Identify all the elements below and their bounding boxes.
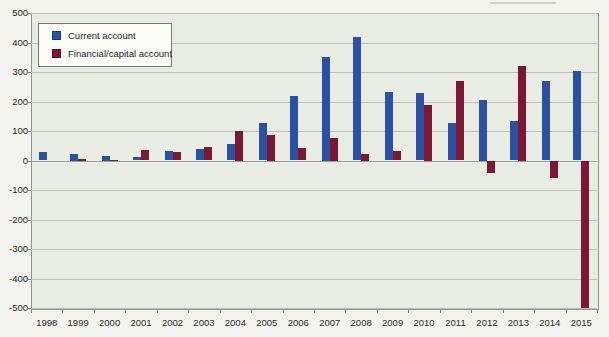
x-axis-label-1998: 1998 bbox=[31, 317, 63, 328]
y-axis-tick--200 bbox=[27, 220, 31, 221]
x-axis-label-2015: 2015 bbox=[565, 317, 597, 328]
x-axis-label-2009: 2009 bbox=[377, 317, 409, 328]
x-axis-label-2006: 2006 bbox=[282, 317, 314, 328]
bar-financial-capital-account-2007 bbox=[330, 138, 338, 161]
x-axis-label-2000: 2000 bbox=[94, 317, 126, 328]
x-axis-tick-18 bbox=[597, 310, 598, 313]
x-axis-tick-13 bbox=[440, 310, 441, 313]
y-axis-tick--500 bbox=[27, 308, 31, 309]
x-axis-label-1999: 1999 bbox=[62, 317, 94, 328]
x-axis-label-2003: 2003 bbox=[188, 317, 220, 328]
x-axis-tick-0 bbox=[31, 310, 32, 313]
bar-current-account-2009 bbox=[385, 92, 393, 161]
legend-item-financial-capital-account: Financial/capital account bbox=[52, 47, 171, 60]
legend-label-current-account: Current account bbox=[68, 30, 136, 41]
bar-current-account-2014 bbox=[542, 81, 550, 161]
y-axis-tick-0 bbox=[27, 161, 31, 162]
x-axis-label-2002: 2002 bbox=[157, 317, 189, 328]
y-axis-label--200: -200 bbox=[0, 215, 28, 225]
y-axis-label-300: 300 bbox=[0, 67, 28, 77]
legend-label-financial-capital-account: Financial/capital account bbox=[68, 48, 172, 59]
y-axis-tick--300 bbox=[27, 249, 31, 250]
bar-financial-capital-account-2004 bbox=[235, 131, 243, 161]
y-axis-label-0: 0 bbox=[0, 156, 28, 166]
y-axis-label--400: -400 bbox=[0, 274, 28, 284]
x-axis-tick-10 bbox=[345, 310, 346, 313]
bar-financial-capital-account-2009 bbox=[393, 151, 401, 160]
y-axis-label--100: -100 bbox=[0, 185, 28, 195]
x-axis-tick-3 bbox=[125, 310, 126, 313]
bar-current-account-2012 bbox=[479, 100, 487, 161]
x-axis-label-2012: 2012 bbox=[471, 317, 503, 328]
bar-current-account-1999 bbox=[70, 154, 78, 161]
bar-financial-capital-account-2006 bbox=[298, 148, 306, 160]
bar-financial-capital-account-2005 bbox=[267, 135, 275, 161]
x-axis-tick-4 bbox=[157, 310, 158, 313]
current-account-swatch-icon bbox=[52, 31, 61, 40]
x-axis-label-2010: 2010 bbox=[408, 317, 440, 328]
y-axis-label--300: -300 bbox=[0, 244, 28, 254]
figure: 5004003002001000-100-200-300-400-500 199… bbox=[0, 0, 609, 337]
x-axis-label-2005: 2005 bbox=[251, 317, 283, 328]
bar-current-account-2015 bbox=[573, 71, 581, 160]
gridline--100 bbox=[31, 190, 597, 191]
bar-financial-capital-account-2008 bbox=[361, 154, 369, 161]
bar-current-account-2013 bbox=[510, 121, 518, 160]
bar-financial-capital-account-2001 bbox=[141, 150, 149, 160]
y-axis-tick--100 bbox=[27, 190, 31, 191]
gridline--400 bbox=[31, 279, 597, 280]
x-axis-label-2001: 2001 bbox=[125, 317, 157, 328]
y-axis-tick-200 bbox=[27, 102, 31, 103]
y-axis-label-500: 500 bbox=[0, 8, 28, 18]
y-axis-label-100: 100 bbox=[0, 126, 28, 136]
bar-current-account-1998 bbox=[39, 152, 47, 161]
bar-current-account-2004 bbox=[227, 144, 235, 160]
bar-financial-capital-account-1999 bbox=[78, 159, 86, 161]
gridline-200 bbox=[31, 102, 597, 103]
x-axis-tick-17 bbox=[566, 310, 567, 313]
gridline--300 bbox=[31, 249, 597, 250]
x-axis-label-2014: 2014 bbox=[534, 317, 566, 328]
x-axis-label-2004: 2004 bbox=[219, 317, 251, 328]
x-axis-label-2013: 2013 bbox=[502, 317, 534, 328]
x-axis-tick-8 bbox=[283, 310, 284, 313]
bar-financial-capital-account-2002 bbox=[173, 152, 181, 161]
bar-financial-capital-account-2013 bbox=[518, 66, 526, 161]
y-axis-label--500: -500 bbox=[0, 303, 28, 313]
x-axis-label-2008: 2008 bbox=[345, 317, 377, 328]
bar-current-account-2005 bbox=[259, 123, 267, 160]
gridline--200 bbox=[31, 220, 597, 221]
x-axis-tick-7 bbox=[251, 310, 252, 313]
x-axis-label-2007: 2007 bbox=[314, 317, 346, 328]
bar-current-account-2003 bbox=[196, 149, 204, 161]
bar-financial-capital-account-2003 bbox=[204, 147, 212, 160]
legend-item-current-account: Current account bbox=[52, 29, 171, 42]
bar-current-account-2001 bbox=[133, 157, 141, 161]
bar-financial-capital-account-2014 bbox=[550, 161, 558, 178]
y-axis-label-400: 400 bbox=[0, 38, 28, 48]
x-axis-tick-15 bbox=[503, 310, 504, 313]
y-axis-tick--400 bbox=[27, 279, 31, 280]
x-axis-tick-14 bbox=[471, 310, 472, 313]
gridline-500 bbox=[31, 13, 597, 14]
y-axis-tick-500 bbox=[27, 13, 31, 14]
x-axis-tick-2 bbox=[94, 310, 95, 313]
bar-current-account-2011 bbox=[448, 123, 456, 161]
bar-financial-capital-account-2012 bbox=[487, 161, 495, 173]
bar-financial-capital-account-2010 bbox=[424, 105, 432, 161]
bar-current-account-2010 bbox=[416, 93, 424, 160]
y-axis-tick-100 bbox=[27, 131, 31, 132]
gridline--500 bbox=[31, 308, 597, 309]
y-axis-tick-300 bbox=[27, 72, 31, 73]
x-axis-tick-11 bbox=[377, 310, 378, 313]
bar-financial-capital-account-2015 bbox=[581, 161, 589, 309]
bar-current-account-2006 bbox=[290, 96, 298, 161]
legend: Current account Financial/capital accoun… bbox=[38, 23, 172, 67]
bar-current-account-2000 bbox=[102, 156, 110, 161]
x-axis-tick-16 bbox=[534, 310, 535, 313]
x-axis-tick-6 bbox=[220, 310, 221, 313]
scan-artifact-line bbox=[490, 2, 556, 4]
bar-current-account-2007 bbox=[322, 57, 330, 160]
financial-capital-account-swatch-icon bbox=[52, 49, 61, 58]
y-axis-label-200: 200 bbox=[0, 97, 28, 107]
